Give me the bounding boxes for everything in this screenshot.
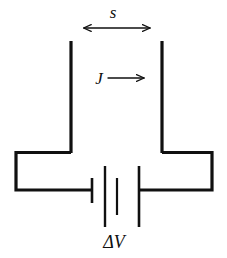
figure-background (0, 0, 227, 258)
separation-label: s (110, 3, 117, 22)
diagram-canvas: s J ΔV (0, 0, 227, 258)
voltage-label: ΔV (102, 232, 127, 252)
capacitor-circuit-figure: s J ΔV (0, 0, 227, 258)
